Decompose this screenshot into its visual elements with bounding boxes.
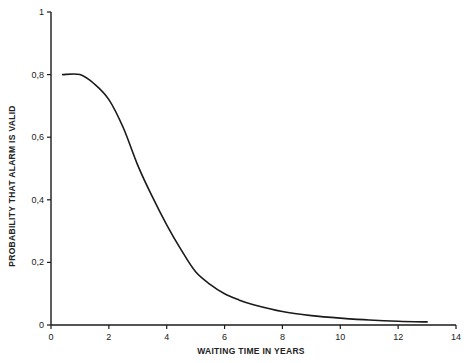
x-tick-label: 4 bbox=[164, 332, 169, 342]
y-tick-label: 1 bbox=[39, 7, 44, 17]
x-ticks: 02468101214 bbox=[48, 325, 461, 342]
y-tick-label: 0,6 bbox=[31, 132, 44, 142]
y-tick-label: 0,2 bbox=[31, 257, 44, 267]
y-tick-label: 0,4 bbox=[31, 195, 44, 205]
x-tick-label: 8 bbox=[280, 332, 285, 342]
x-tick-label: 12 bbox=[393, 332, 403, 342]
x-tick-label: 6 bbox=[222, 332, 227, 342]
y-tick-label: 0,8 bbox=[31, 70, 44, 80]
x-tick-label: 0 bbox=[48, 332, 53, 342]
chart: 00,20,40,60,81 02468101214 WAITING TIME … bbox=[0, 0, 469, 363]
y-axis-title: PROBABILITY THAT ALARM IS VALID bbox=[7, 105, 17, 267]
x-tick-label: 14 bbox=[451, 332, 461, 342]
y-ticks: 00,20,40,60,81 bbox=[31, 7, 51, 330]
plot-area: 00,20,40,60,81 02468101214 bbox=[31, 7, 461, 342]
x-tick-label: 2 bbox=[106, 332, 111, 342]
y-tick-label: 0 bbox=[39, 320, 44, 330]
probability-curve bbox=[63, 74, 428, 322]
x-tick-label: 10 bbox=[335, 332, 345, 342]
x-axis-title: WAITING TIME IN YEARS bbox=[197, 346, 305, 356]
